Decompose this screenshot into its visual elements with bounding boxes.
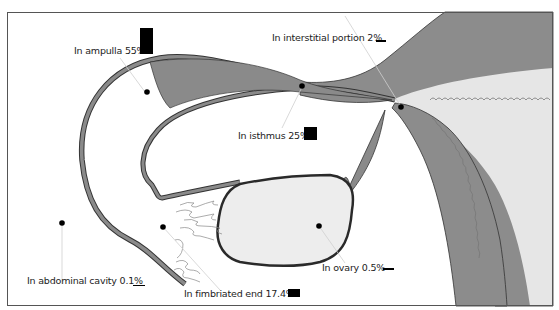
dot-ovary bbox=[316, 223, 322, 229]
label-interstitial: In interstitial portion 2% bbox=[272, 32, 382, 43]
bar-isthmus bbox=[304, 127, 317, 140]
bar-abdominal bbox=[133, 285, 145, 286]
ovary bbox=[217, 175, 353, 266]
dot-abdominal bbox=[59, 220, 65, 226]
fimbriae bbox=[174, 201, 222, 282]
dot-ampulla bbox=[144, 89, 150, 95]
bar-ampulla bbox=[140, 28, 153, 54]
dot-fimbriated bbox=[160, 224, 166, 230]
dot-interstitial bbox=[398, 104, 404, 110]
bar-interstitial bbox=[376, 40, 386, 42]
dot-isthmus bbox=[299, 83, 305, 89]
label-abdominal: In abdominal cavity 0.1% bbox=[27, 275, 143, 286]
label-isthmus: In isthmus 25% bbox=[238, 130, 309, 141]
bar-ovary bbox=[383, 268, 394, 270]
bar-fimbriated bbox=[288, 289, 300, 297]
label-fimbriated: In fimbriated end 17.4% bbox=[184, 288, 295, 299]
label-ovary: In ovary 0.5% bbox=[322, 262, 385, 273]
label-ampulla: In ampulla 55% bbox=[74, 45, 145, 56]
